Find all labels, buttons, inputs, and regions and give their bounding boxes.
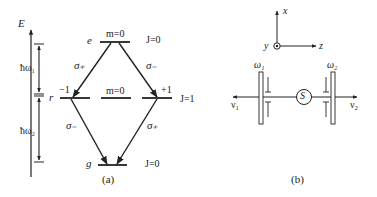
photon-left-label: ν₁: [231, 100, 239, 110]
interval-lower-label: ħω₂: [20, 126, 35, 136]
axis-y-label: y: [264, 41, 268, 51]
level-e-m-label: m=0: [106, 29, 124, 39]
interval-upper-arrow: [34, 44, 44, 94]
axis-x-label: x: [283, 6, 287, 16]
caption-a: (a): [102, 174, 114, 185]
photon-right-label: ν₂: [350, 100, 358, 110]
filter-left-label: ω₁: [254, 60, 265, 70]
transition-lower-right-label: σ₊: [147, 120, 158, 131]
filter-left: [259, 72, 263, 124]
filter-right-label: ω₂: [327, 60, 338, 70]
level-g-name: g: [86, 158, 92, 169]
transition-lower-left-label: σ₋: [66, 120, 77, 131]
level-e-name: e: [87, 35, 92, 46]
transition-upper-left-label: σ₊: [74, 60, 85, 71]
energy-axis-label: E: [18, 18, 25, 29]
caption-b: (b): [291, 174, 304, 185]
level-r-j-label: J=1: [180, 94, 195, 104]
level-g-j-label: J=0: [145, 159, 160, 169]
axis-z-label: z: [319, 41, 323, 51]
level-e-j-label: J=0: [146, 35, 161, 45]
level-r-m-minus-label: −1: [59, 85, 70, 95]
coordinate-axes: [274, 11, 316, 49]
interval-lower-arrow: [34, 96, 44, 162]
transition-upper-right-label: σ₋: [146, 60, 157, 71]
interval-upper-label: ħω₁: [20, 63, 35, 73]
filter-right: [331, 72, 335, 124]
level-r-m-plus-label: +1: [161, 85, 172, 95]
level-r-name: r: [49, 92, 53, 103]
level-r-m-zero-label: m=0: [106, 86, 124, 96]
source-label: S: [300, 91, 305, 101]
